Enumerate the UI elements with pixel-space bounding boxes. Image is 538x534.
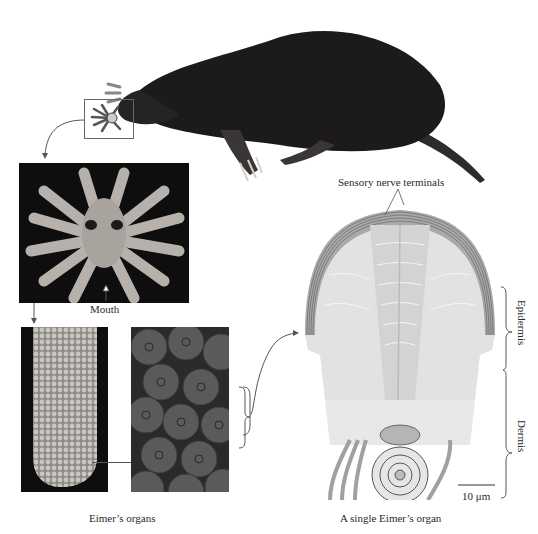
star-nose-sem-photo bbox=[19, 163, 189, 303]
nerve-terminal-leaders bbox=[380, 189, 410, 219]
epidermis-dermis-braces bbox=[500, 285, 514, 500]
mouth-label: Mouth bbox=[90, 303, 119, 315]
mouth-pointer-arrow bbox=[101, 283, 111, 303]
single-organ-caption: A single Eimer’s organ bbox=[340, 512, 441, 524]
arrow-star-to-tentacle bbox=[29, 303, 39, 325]
sensory-nerve-terminals-label: Sensory nerve terminals bbox=[338, 176, 444, 188]
tentacle-sem-photo bbox=[21, 327, 108, 492]
eimers-organs-label: Eimer’s organs bbox=[89, 512, 156, 524]
mole-illustration bbox=[80, 15, 500, 185]
scale-bar-label: 10 μm bbox=[462, 490, 490, 502]
eimers-organ-diagram bbox=[300, 185, 500, 500]
arrow-inset-to-star bbox=[35, 115, 95, 160]
eimers-organs-sem-photo bbox=[131, 327, 229, 492]
photo-brace bbox=[237, 385, 251, 450]
epidermis-label: Epidermis bbox=[516, 300, 528, 345]
dermis-label: Dermis bbox=[516, 420, 528, 452]
